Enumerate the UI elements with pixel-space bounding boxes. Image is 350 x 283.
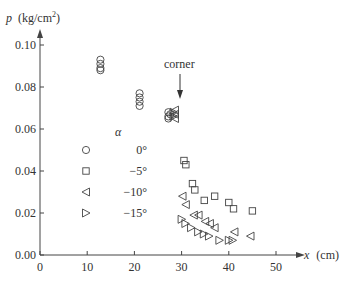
- square-marker-icon: [230, 206, 236, 212]
- circle-marker-icon: [136, 90, 143, 97]
- y-tick-label: 0.02: [15, 206, 36, 220]
- triangle-left-icon: [82, 188, 90, 196]
- x-tick-label: 20: [128, 260, 140, 274]
- triangle-right-marker-icon: [188, 224, 196, 232]
- triangle-left-marker-icon: [211, 224, 219, 232]
- square-marker-icon: [211, 193, 217, 199]
- legend-item: −15°: [83, 206, 148, 220]
- triangle-left-marker-icon: [247, 232, 255, 240]
- y-tick-label: 0.04: [15, 164, 36, 178]
- triangle-right-marker-icon: [195, 228, 203, 236]
- square-marker-icon: [249, 208, 255, 214]
- y-tick-label: 0.00: [15, 248, 36, 262]
- triangle-left-marker-icon: [182, 201, 190, 209]
- legend-label: 0°: [136, 143, 147, 157]
- triangle-left-marker-icon: [190, 211, 198, 219]
- scatter-chart: 010203040500.000.020.040.060.080.10 α0°−…: [0, 0, 350, 283]
- triangle-left-marker-icon: [230, 228, 238, 236]
- square-marker-icon: [189, 180, 195, 186]
- y-tick-label: 0.06: [15, 122, 36, 136]
- x-tick-label: 30: [176, 260, 188, 274]
- triangle-left-marker-icon: [206, 220, 214, 228]
- circle-marker-icon: [136, 94, 143, 101]
- x-tick-label: 40: [223, 260, 235, 274]
- series-circle: [97, 56, 174, 122]
- corner-annotation: corner: [164, 57, 195, 71]
- x-tick-label: 10: [81, 260, 93, 274]
- y-tick-label: 0.08: [15, 80, 36, 94]
- data-points: [97, 56, 256, 244]
- legend-item: −5°: [83, 164, 147, 178]
- legend-label: −5°: [129, 164, 147, 178]
- series-triangle-right: [170, 108, 237, 244]
- circle-icon: [82, 146, 89, 153]
- legend-label: −15°: [123, 206, 147, 220]
- legend-label: −10°: [123, 185, 147, 199]
- circle-marker-icon: [97, 56, 104, 63]
- corner-arrow-icon: [177, 74, 183, 99]
- square-icon: [83, 168, 89, 174]
- triangle-right-marker-icon: [216, 236, 224, 244]
- x-tick-label: 0: [37, 260, 43, 274]
- y-tick-label: 0.10: [15, 38, 36, 52]
- x-tick-label: 50: [270, 260, 282, 274]
- y-axis-arrow-icon: [37, 29, 43, 38]
- tick-labels: 010203040500.000.020.040.060.080.10: [15, 38, 282, 274]
- square-marker-icon: [226, 199, 232, 205]
- y-axis-label: p (kg/cm2): [5, 10, 60, 25]
- square-marker-icon: [183, 162, 189, 168]
- legend-title: α: [115, 125, 122, 139]
- legend-item: 0°: [82, 143, 147, 157]
- triangle-right-icon: [83, 209, 91, 217]
- circle-marker-icon: [136, 102, 143, 109]
- square-marker-icon: [192, 187, 198, 193]
- x-axis-label: x (cm): [303, 248, 339, 262]
- circle-marker-icon: [136, 98, 143, 105]
- square-marker-icon: [181, 157, 187, 163]
- legend: α0°−5°−10°−15°: [82, 125, 147, 220]
- triangle-left-marker-icon: [179, 192, 187, 200]
- square-marker-icon: [201, 197, 207, 203]
- legend-item: −10°: [82, 185, 147, 199]
- series-square: [181, 157, 256, 214]
